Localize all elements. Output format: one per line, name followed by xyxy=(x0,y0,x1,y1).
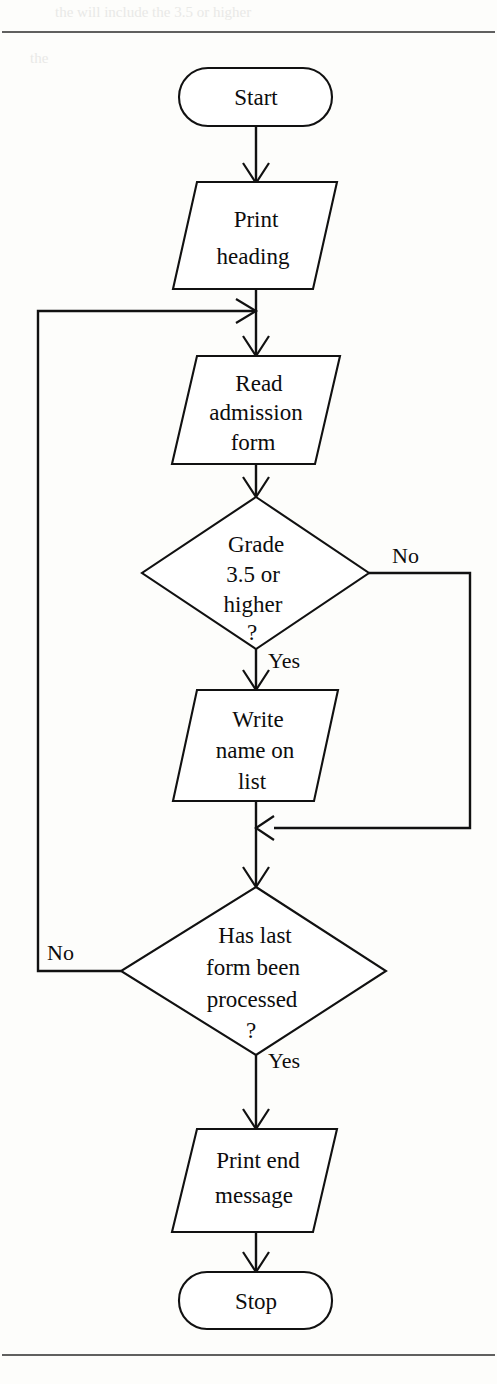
edge-print-end-to-stop xyxy=(243,1232,269,1272)
edge-read-form-to-grade xyxy=(243,464,269,497)
edge-write-to-last-form xyxy=(243,801,269,887)
node-write-line-2: name on xyxy=(216,738,295,763)
node-write-line-3: list xyxy=(238,769,267,794)
edge-start-to-print-heading xyxy=(243,126,269,183)
edge-label-grade-yes: Yes xyxy=(268,648,300,673)
node-print-end-message[interactable]: Print end message xyxy=(172,1129,337,1232)
node-start-line-1: Start xyxy=(234,85,278,110)
edge-label-grade-no: No xyxy=(392,543,419,568)
flowchart-diagram: Start Print heading Read admission form … xyxy=(0,0,497,1384)
edge-grade-yes-to-write xyxy=(243,649,269,690)
node-last-form-line-3: processed xyxy=(207,987,298,1012)
node-stop[interactable]: Stop xyxy=(179,1272,332,1329)
node-stop-line-1: Stop xyxy=(235,1289,277,1314)
scanned-page: Start Print heading Read admission form … xyxy=(0,0,497,1384)
node-last-form-decision[interactable]: Has last form been processed ? xyxy=(121,887,386,1055)
edge-print-heading-to-read-form xyxy=(243,289,269,356)
edge-label-last-form-yes: Yes xyxy=(268,1048,300,1073)
node-read-form-line-3: form xyxy=(231,430,276,455)
edge-last-form-yes-to-print-end xyxy=(243,1055,269,1129)
node-read-admission-form[interactable]: Read admission form xyxy=(172,356,340,464)
node-grade-line-4: ? xyxy=(247,620,257,645)
node-last-form-line-2: form been xyxy=(206,955,300,980)
node-write-name-on-list[interactable]: Write name on list xyxy=(173,690,338,801)
node-grade-decision[interactable]: Grade 3.5 or higher ? xyxy=(142,497,369,649)
node-last-form-line-1: Has last xyxy=(218,923,292,948)
node-print-heading-line-1: Print xyxy=(234,207,279,232)
node-print-heading-line-2: heading xyxy=(217,244,290,269)
node-read-form-line-1: Read xyxy=(235,371,283,396)
node-grade-line-1: Grade xyxy=(228,532,284,557)
node-write-line-1: Write xyxy=(232,707,283,732)
node-print-end-line-2: message xyxy=(215,1183,293,1208)
edge-label-last-form-no: No xyxy=(47,940,74,965)
node-read-form-line-2: admission xyxy=(209,400,303,425)
node-start[interactable]: Start xyxy=(179,68,332,126)
node-grade-line-2: 3.5 or xyxy=(226,562,280,587)
node-last-form-line-4: ? xyxy=(246,1018,256,1043)
node-print-end-line-1: Print end xyxy=(216,1148,300,1173)
node-print-heading[interactable]: Print heading xyxy=(173,182,337,289)
node-grade-line-3: higher xyxy=(224,592,283,617)
